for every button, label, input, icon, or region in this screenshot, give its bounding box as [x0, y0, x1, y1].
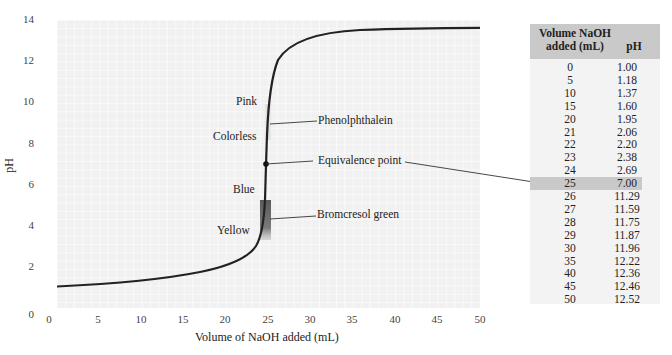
- table-row: 5012.52: [530, 293, 660, 306]
- table-row: 101.37: [530, 87, 660, 100]
- blue-label: Blue: [233, 183, 255, 195]
- table-row: 51.18: [530, 74, 660, 87]
- yellow-label: Yellow: [217, 224, 250, 236]
- table-row: 212.06: [530, 126, 660, 139]
- table-row: 201.95: [530, 113, 660, 126]
- data-table: Volume NaOH added (mL) pH 01.00 51.18 10…: [530, 24, 660, 304]
- table-row: 2611.29: [530, 190, 660, 203]
- table-row: 242.69: [530, 164, 660, 177]
- table-row: 3512.22: [530, 255, 660, 268]
- phenolphthalein-label: Phenolphthalein: [318, 114, 393, 126]
- table-row: 232.38: [530, 151, 660, 164]
- table-row: 4512.46: [530, 280, 660, 293]
- table-row: 151.60: [530, 100, 660, 113]
- table-row: 2911.87: [530, 229, 660, 242]
- header-volume: Volume NaOH added (mL): [536, 27, 614, 53]
- table-row-equivalence: 257.00: [530, 177, 642, 190]
- table-row: 222.20: [530, 138, 660, 151]
- bromcresol-green-label: Bromcresol green: [317, 208, 399, 220]
- colorless-label: Colorless: [213, 130, 256, 142]
- titration-curve: [57, 28, 480, 287]
- table-row: 2811.75: [530, 216, 660, 229]
- pink-label: Pink: [236, 95, 257, 107]
- equivalence-point-label: Equivalence point: [318, 154, 401, 166]
- table-row: 01.00: [530, 61, 660, 74]
- table-row: 2711.59: [530, 203, 660, 216]
- table-header: Volume NaOH added (mL) pH: [530, 24, 660, 59]
- table-row: 3011.96: [530, 242, 660, 255]
- header-ph: pH: [614, 40, 654, 52]
- table-row: 4012.36: [530, 267, 660, 280]
